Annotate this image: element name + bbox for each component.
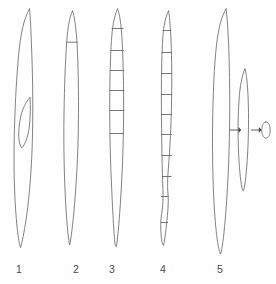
- arrow-medium-to-small-head: [259, 127, 262, 133]
- figure-4-label: 4: [160, 263, 166, 275]
- figure-4-group: 4: [160, 11, 172, 275]
- figure-plate: 1 2 3: [0, 0, 276, 284]
- figure-3-group: 3: [109, 9, 124, 275]
- figure-1-group: 1: [14, 9, 33, 275]
- illustration-canvas: 1 2 3: [0, 0, 276, 284]
- figure-5-group: 5: [213, 9, 271, 275]
- figure-4-outline: [161, 11, 172, 246]
- figure-2-label: 2: [73, 263, 79, 275]
- figure-3-label: 3: [109, 263, 115, 275]
- figure-5-small-ovoid: [262, 122, 270, 138]
- figure-1-inner-lens-body: [19, 98, 31, 148]
- figure-2-outline: [64, 11, 79, 245]
- figure-2-group: 2: [64, 11, 79, 275]
- figure-5-outline: [213, 9, 230, 254]
- figure-5-label: 5: [217, 263, 223, 275]
- figure-1-label: 1: [16, 263, 22, 275]
- figure-1-outline: [14, 9, 33, 248]
- figure-3-outline: [110, 9, 124, 247]
- arrow-large-to-medium-icon: [230, 127, 241, 133]
- arrow-large-to-medium-head: [239, 127, 242, 133]
- arrow-medium-to-small-icon: [251, 127, 262, 133]
